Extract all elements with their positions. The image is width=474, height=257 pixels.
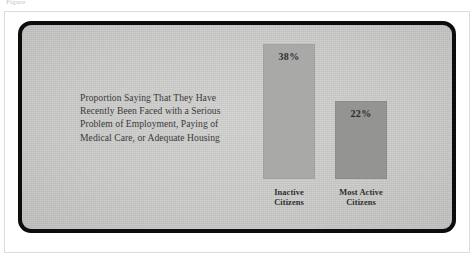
bar-value-inactive-citizens: 38% bbox=[263, 51, 315, 63]
bar-label-most-active-citizens: Most Active Citizens bbox=[319, 188, 403, 209]
caption-line-4: Medical Care, or Adequate Housing bbox=[80, 131, 270, 144]
bar-group-inactive-citizens: 38% Inactive Citizens bbox=[263, 21, 315, 229]
caption-line-2: Recently Been Faced with a Serious bbox=[80, 104, 270, 117]
bar-label-line-1: Most Active bbox=[319, 188, 403, 199]
caption-line-1: Proportion Saying That They Have bbox=[80, 91, 270, 104]
caption-line-3: Problem of Employment, Paying of bbox=[80, 117, 270, 130]
bar-group-most-active-citizens: 22% Most Active Citizens bbox=[335, 21, 387, 229]
bar-inactive-citizens[interactable]: 38% bbox=[263, 44, 315, 179]
bar-most-active-citizens[interactable]: 22% bbox=[335, 101, 387, 179]
bar-value-most-active-citizens: 22% bbox=[335, 108, 387, 120]
figure-frame: Proportion Saying That They Have Recentl… bbox=[18, 21, 456, 233]
figure-page: Figure Proportion Saying That They Have … bbox=[0, 0, 474, 257]
chart-caption: Proportion Saying That They Have Recentl… bbox=[80, 91, 270, 144]
page-top-caption: Figure bbox=[6, 0, 66, 7]
bar-label-line-2: Citizens bbox=[319, 198, 403, 209]
